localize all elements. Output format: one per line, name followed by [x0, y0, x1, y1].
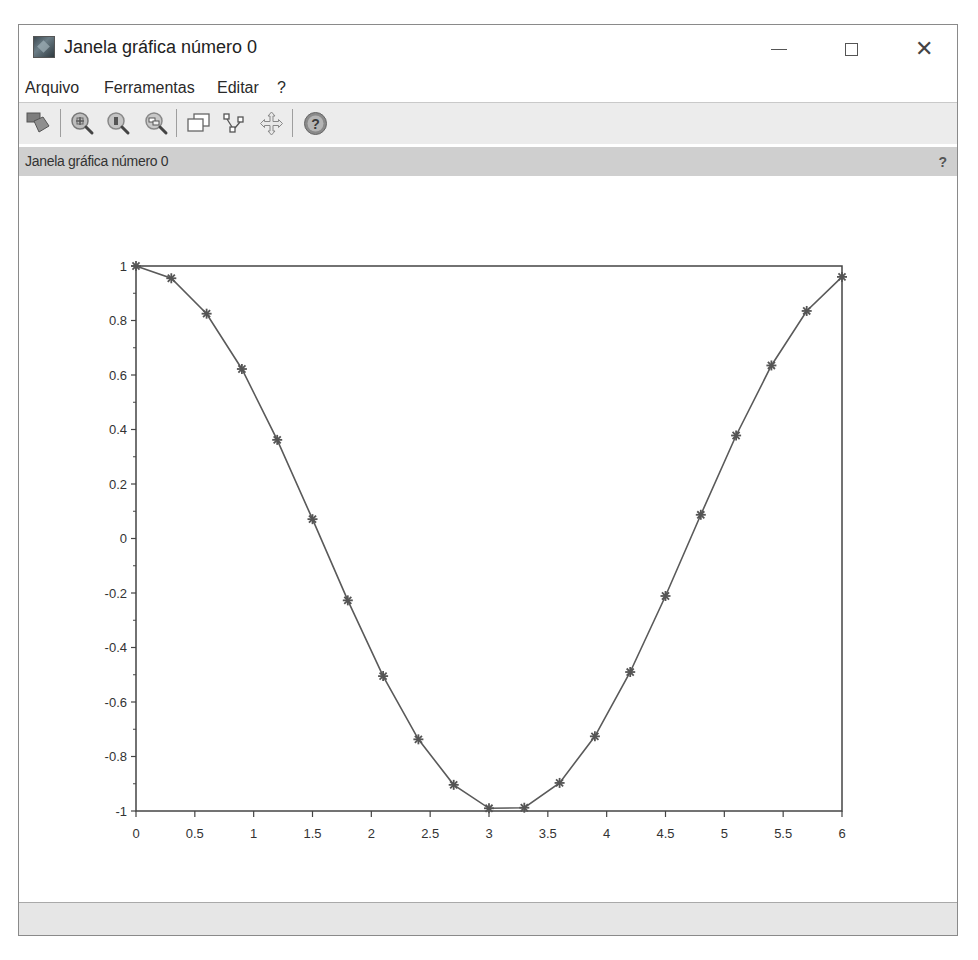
datatip-icon[interactable]	[222, 110, 247, 137]
menu-help[interactable]: ?	[277, 79, 286, 97]
y-tick-label: -0.6	[105, 695, 127, 710]
info-bar-text: Janela gráfica número 0	[25, 153, 168, 169]
data-point-star-marker	[802, 306, 812, 316]
data-point-star-marker	[413, 734, 423, 744]
menu-arquivo[interactable]: Arquivo	[25, 79, 79, 97]
window-title: Janela gráfica número 0	[64, 37, 257, 58]
x-tick-label: 0	[132, 826, 139, 841]
graphic-window: Janela gráfica número 0 ✕ Arquivo Ferram…	[18, 24, 958, 936]
data-point-star-marker	[166, 273, 176, 283]
data-point-star-marker	[484, 803, 494, 813]
data-point-star-marker	[696, 510, 706, 520]
close-icon: ✕	[915, 38, 933, 60]
pan-icon[interactable]	[259, 110, 284, 137]
info-help-button[interactable]: ?	[938, 154, 947, 170]
menu-bar: Arquivo Ferramentas Editar ?	[19, 75, 957, 102]
x-tick-label: 1	[250, 826, 257, 841]
data-point-star-marker	[661, 591, 671, 601]
data-point-star-marker	[449, 780, 459, 790]
line-chart: -1-0.8-0.6-0.4-0.200.20.40.60.8100.511.5…	[19, 176, 957, 904]
maximize-icon	[845, 43, 858, 56]
toolbar-separator	[292, 109, 293, 137]
menu-editar[interactable]: Editar	[217, 79, 259, 97]
x-tick-label: 4.5	[656, 826, 674, 841]
x-tick-label: 6	[838, 826, 845, 841]
x-tick-label: 4	[603, 826, 610, 841]
title-bar[interactable]: Janela gráfica número 0 ✕	[19, 25, 957, 75]
data-point-star-marker	[272, 435, 282, 445]
x-tick-label: 2.5	[421, 826, 439, 841]
zoom-original-icon[interactable]	[106, 110, 131, 137]
data-point-star-marker	[378, 671, 388, 681]
data-point-star-marker	[237, 364, 247, 374]
y-tick-label: -0.8	[105, 749, 127, 764]
x-tick-label: 3.5	[539, 826, 557, 841]
menu-ferramentas[interactable]: Ferramentas	[104, 79, 195, 97]
data-point-star-marker	[837, 272, 847, 282]
maximize-button[interactable]	[831, 33, 871, 65]
minimize-button[interactable]	[759, 33, 799, 65]
y-tick-label: -0.2	[105, 586, 127, 601]
data-point-star-marker	[555, 778, 565, 788]
y-tick-label: 0	[120, 531, 127, 546]
series-line	[136, 266, 842, 808]
x-tick-label: 2	[368, 826, 375, 841]
y-tick-label: 0.6	[109, 368, 127, 383]
help-icon[interactable]: ?	[303, 110, 328, 137]
x-tick-label: 0.5	[186, 826, 204, 841]
minimize-icon	[771, 49, 787, 50]
y-tick-label: -0.4	[105, 640, 127, 655]
data-point-star-marker	[308, 514, 318, 524]
toolbar-separator	[60, 109, 61, 137]
data-point-star-marker	[731, 430, 741, 440]
close-button[interactable]: ✕	[904, 33, 944, 65]
status-bar	[19, 902, 957, 935]
x-tick-label: 1.5	[303, 826, 321, 841]
rotate-3d-icon[interactable]	[25, 110, 50, 137]
data-point-star-marker	[766, 360, 776, 370]
data-point-star-marker	[131, 261, 141, 271]
windows-icon[interactable]	[186, 110, 211, 137]
y-tick-label: 0.8	[109, 313, 127, 328]
data-point-star-marker	[519, 803, 529, 813]
data-point-star-marker	[343, 595, 353, 605]
x-tick-label: 3	[485, 826, 492, 841]
y-tick-label: 0.2	[109, 477, 127, 492]
x-tick-label: 5.5	[774, 826, 792, 841]
data-point-star-marker	[202, 309, 212, 319]
y-tick-label: 1	[120, 259, 127, 274]
scilab-app-icon	[33, 36, 55, 58]
y-tick-label: -1	[115, 804, 127, 819]
plot-canvas[interactable]: -1-0.8-0.6-0.4-0.200.20.40.60.8100.511.5…	[19, 176, 957, 904]
toolbar-separator	[176, 109, 177, 137]
y-tick-label: 0.4	[109, 422, 127, 437]
svg-text:?: ?	[311, 116, 320, 132]
zoom-in-icon[interactable]	[70, 110, 95, 137]
data-point-star-marker	[625, 667, 635, 677]
plot-frame	[136, 266, 842, 811]
zoom-area-icon[interactable]	[144, 110, 169, 137]
toolbar: ?	[19, 102, 957, 144]
x-tick-label: 5	[721, 826, 728, 841]
info-bar: Janela gráfica número 0 ?	[19, 147, 957, 176]
data-point-star-marker	[590, 731, 600, 741]
